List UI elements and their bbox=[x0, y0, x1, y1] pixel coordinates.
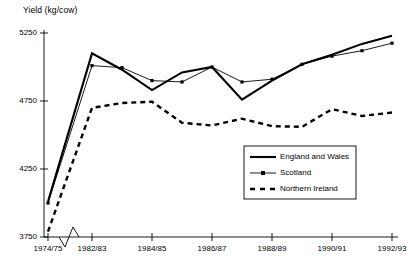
y-tick-label: 4250 bbox=[19, 164, 37, 173]
y-tick-label: 4750 bbox=[19, 96, 37, 105]
x-tick-label: 1982/83 bbox=[68, 244, 116, 253]
y-tick-label: 3750 bbox=[19, 232, 37, 241]
x-tick-label: 1984/85 bbox=[128, 244, 176, 253]
chart-axes bbox=[40, 30, 398, 247]
legend-item-label: Northern Ireland bbox=[280, 184, 338, 193]
y-tick-label: 5250 bbox=[19, 28, 37, 37]
chart-series-group bbox=[46, 36, 393, 232]
legend-item-label: Scotland bbox=[280, 168, 311, 177]
x-tick-label: 1986/87 bbox=[188, 244, 236, 253]
chart-plot-area bbox=[0, 0, 408, 256]
x-tick-label: 1974/75 bbox=[24, 244, 72, 253]
legend-item-label: England and Wales bbox=[280, 152, 349, 161]
x-tick-label: 1992/93 bbox=[368, 244, 408, 253]
x-tick-label: 1988/89 bbox=[248, 244, 296, 253]
x-tick-label: 1990/91 bbox=[308, 244, 356, 253]
chart-container: Yield (kg/cow) 3750425047505250 1974/751… bbox=[0, 0, 408, 256]
